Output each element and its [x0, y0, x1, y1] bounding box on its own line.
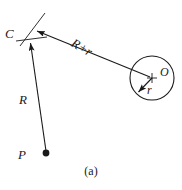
- figure-container: C R P O r R+r (a): [0, 0, 182, 190]
- label-segment-R: R: [19, 93, 27, 106]
- label-point-c: C: [5, 27, 14, 40]
- tick-mark-steep-at-c: [20, 13, 45, 46]
- label-radius-r: r: [147, 84, 152, 96]
- label-point-o: O: [160, 66, 169, 78]
- geometry-diagram-svg: [0, 0, 182, 190]
- segment-R-line: [31, 43, 47, 151]
- segment-R-plus-r-line: [37, 31, 150, 77]
- label-point-p: P: [18, 148, 26, 161]
- figure-caption: (a): [0, 164, 182, 179]
- point-p-dot: [43, 150, 50, 157]
- tick-mark-shallow-at-c: [16, 37, 47, 41]
